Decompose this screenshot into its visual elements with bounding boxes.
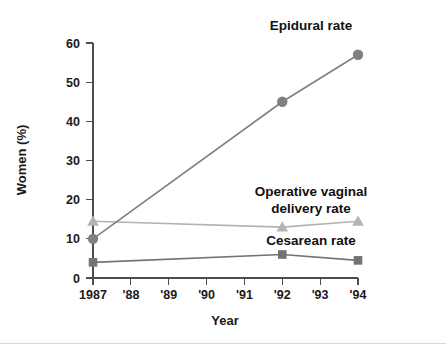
- y-axis: 60 50 40 30 20 10 0 Women (%): [14, 37, 93, 286]
- series-line-operative: [93, 221, 358, 227]
- y-tick-label-60: 60: [66, 37, 80, 51]
- data-point-cesarean-92: [278, 250, 287, 259]
- series-markers-cesarean: [89, 250, 363, 266]
- y-axis-title: Women (%): [14, 125, 29, 196]
- series-operative-vaginal-delivery-rate: [87, 215, 364, 231]
- y-tick-label-50: 50: [66, 76, 80, 90]
- data-point-epidural-94: [353, 50, 363, 60]
- y-tick-label-30: 30: [66, 154, 80, 168]
- x-tick-label-1994: '94: [350, 288, 367, 302]
- x-tick-label-1992: '92: [274, 288, 291, 302]
- y-tick-label-40: 40: [66, 115, 80, 129]
- data-point-cesarean-1987: [89, 258, 98, 267]
- chart-figure: 60 50 40 30 20 10 0 Women (%) 1987 '88 '…: [0, 0, 446, 354]
- x-tick-label-1991: '91: [236, 288, 253, 302]
- line-chart: 60 50 40 30 20 10 0 Women (%) 1987 '88 '…: [0, 0, 446, 354]
- annotation-operative-vaginal-line2: delivery rate: [271, 201, 351, 216]
- x-tick-label-1988: '88: [122, 288, 139, 302]
- series-line-cesarean: [93, 255, 358, 263]
- x-tick-label-1993: '93: [312, 288, 329, 302]
- data-point-cesarean-94: [354, 256, 363, 265]
- x-tick-label-1989: '89: [160, 288, 177, 302]
- y-tick-label-20: 20: [66, 193, 80, 207]
- x-axis-title: Year: [211, 313, 238, 328]
- data-point-epidural-92: [277, 97, 287, 107]
- data-point-operative-vaginal-delivery-94: [352, 215, 364, 225]
- annotation-cesarean-rate: Cesarean rate: [266, 233, 356, 248]
- page-divider: [0, 343, 446, 344]
- x-axis: 1987 '88 '89 '90 '91 '92 '93 '94 Year: [79, 278, 366, 328]
- x-tick-label-1990: '90: [198, 288, 215, 302]
- annotation-operative-vaginal-line1: Operative vaginal: [255, 184, 368, 199]
- y-tick-label-0: 0: [73, 272, 80, 286]
- series-cesarean-rate: [89, 250, 363, 266]
- annotation-epidural-rate: Epidural rate: [270, 18, 353, 33]
- data-point-epidural-1987: [88, 234, 98, 244]
- x-tick-label-1987: 1987: [79, 288, 107, 302]
- y-tick-label-10: 10: [66, 232, 80, 246]
